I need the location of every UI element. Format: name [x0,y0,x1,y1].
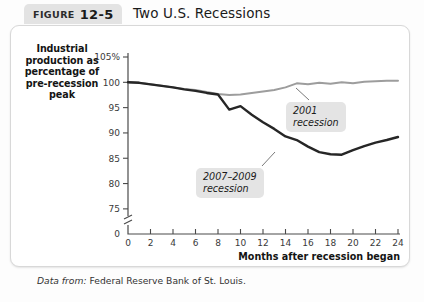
series-line [128,82,398,154]
y-tick-label: 75 [109,204,120,214]
x-tick-label: 2 [148,238,154,248]
figure-container: FIGURE 12-5 Two U.S. Recessions Industri… [0,0,424,302]
x-tick-label: 6 [193,238,199,248]
y-tick-label: 100 [103,78,120,88]
annotation-0709-line1: 2007–2009 [203,171,257,183]
annotation-2007-2009-recession: 2007–2009 recession [196,168,264,198]
annotation-2001-recession: 2001 recession [286,102,346,132]
annotation-leader [262,152,275,166]
source-text: Federal Reserve Bank of St. Louis. [89,275,245,286]
y-tick-label: 85 [109,154,120,164]
annotation-2001-line2: recession [293,117,339,129]
x-tick-label: 8 [215,238,221,248]
x-tick-label: 10 [235,238,247,248]
annotation-leader [296,88,309,100]
y-tick-label: 80 [109,179,121,189]
axis-titles: Months after recession began [238,251,400,262]
x-tick-label: 16 [302,238,314,248]
x-tick-label: 12 [257,238,268,248]
annotation-0709-line2: recession [203,183,257,195]
x-tick-label: 20 [347,238,359,248]
chart-plot: 7580859095100105%0024681012141618202224 … [0,0,424,302]
source-prefix: Data from: [37,275,87,286]
y-tick-label: 95 [109,103,120,113]
x-tick-label: 14 [280,238,292,248]
x-axis-title: Months after recession began [238,251,400,262]
chart-series [128,81,398,155]
x-tick-label: 22 [370,238,381,248]
chart-axes: 7580859095100105%0024681012141618202224 [94,52,404,248]
x-tick-label: 18 [325,238,337,248]
x-tick-label: 0 [125,238,131,248]
y-origin-label: 0 [114,229,120,239]
y-tick-label: 105% [94,52,120,62]
source-note: Data from: Federal Reserve Bank of St. L… [37,275,246,286]
y-tick-label: 90 [109,128,121,138]
x-tick-label: 24 [392,238,404,248]
annotation-2001-line1: 2001 [293,105,339,117]
x-tick-label: 4 [170,238,176,248]
